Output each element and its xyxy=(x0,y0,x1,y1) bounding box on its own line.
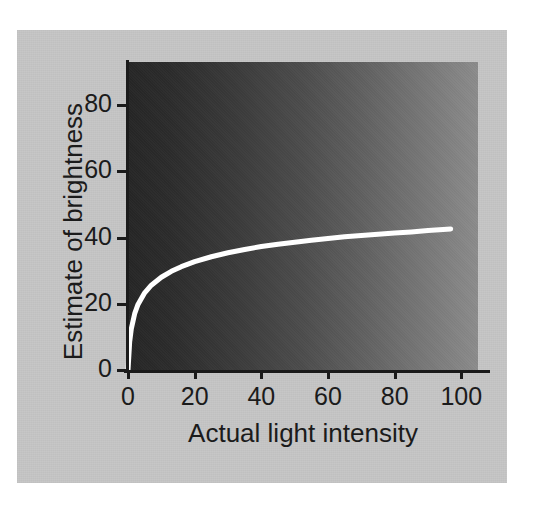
brightness-curve xyxy=(128,62,478,370)
x-tick-20 xyxy=(194,370,197,379)
y-tick-60 xyxy=(117,170,128,173)
y-tick-80 xyxy=(117,104,128,107)
x-tick-80 xyxy=(394,370,397,379)
x-tick-label-100: 100 xyxy=(426,382,496,411)
x-tick-label-40: 40 xyxy=(226,382,296,411)
x-tick-60 xyxy=(327,370,330,379)
x-tick-label-20: 20 xyxy=(160,382,230,411)
plot-area xyxy=(128,62,478,370)
x-axis-title: Actual light intensity xyxy=(128,418,478,449)
x-tick-label-80: 80 xyxy=(360,382,430,411)
x-tick-label-60: 60 xyxy=(293,382,363,411)
figure-root: 020406080100 020406080 Actual light inte… xyxy=(0,0,537,508)
y-tick-40 xyxy=(117,237,128,240)
x-tick-40 xyxy=(260,370,263,379)
x-axis-line xyxy=(124,370,490,373)
y-axis-title: Estimate of brightness xyxy=(58,82,89,382)
y-tick-0 xyxy=(117,369,128,372)
curve-path-estimate-of-brightness xyxy=(128,229,451,370)
x-tick-100 xyxy=(460,370,463,379)
y-tick-20 xyxy=(117,303,128,306)
